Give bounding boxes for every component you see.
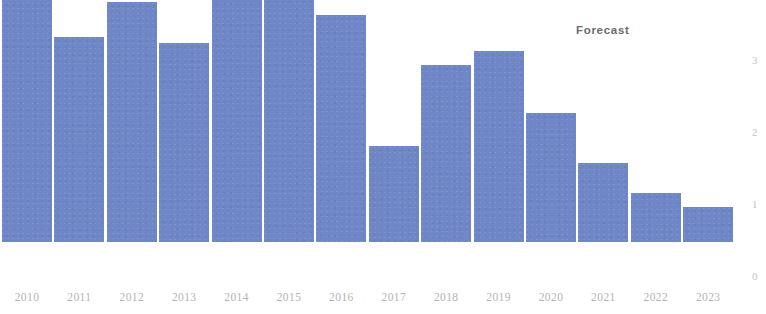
- bar-2017[interactable]: [369, 146, 419, 242]
- plot-area: [0, 0, 748, 279]
- xtick-label-2016: 2016: [315, 291, 367, 303]
- bar-2012[interactable]: [107, 2, 157, 242]
- ytick-label-3: 3: [752, 54, 766, 66]
- bar-chart: Forecast 2010201120122013201420152016201…: [0, 0, 766, 314]
- bar-2014[interactable]: [212, 0, 262, 242]
- ytick-label-1: 1: [752, 198, 766, 210]
- xtick-label-2015: 2015: [263, 291, 315, 303]
- bar-2019[interactable]: [474, 51, 524, 242]
- xtick-label-2017: 2017: [368, 291, 420, 303]
- xtick-label-2020: 2020: [525, 291, 577, 303]
- xtick-label-2018: 2018: [420, 291, 472, 303]
- xtick-label-2023: 2023: [682, 291, 734, 303]
- xtick-label-2019: 2019: [473, 291, 525, 303]
- bar-2010[interactable]: [2, 0, 52, 242]
- xtick-label-2014: 2014: [211, 291, 263, 303]
- xtick-label-2013: 2013: [158, 291, 210, 303]
- bar-2020[interactable]: [526, 113, 576, 242]
- bar-2022[interactable]: [631, 193, 681, 242]
- ytick-label-2: 2: [752, 126, 766, 138]
- bar-2018[interactable]: [421, 65, 471, 242]
- bar-2023[interactable]: [683, 207, 733, 242]
- bar-2016[interactable]: [316, 15, 366, 242]
- xtick-label-2021: 2021: [577, 291, 629, 303]
- ytick-label-0: 0: [752, 270, 766, 282]
- xtick-label-2011: 2011: [53, 291, 105, 303]
- forecast-annotation-label: Forecast: [576, 24, 630, 36]
- xtick-label-2022: 2022: [630, 291, 682, 303]
- xtick-label-2012: 2012: [106, 291, 158, 303]
- bar-2021[interactable]: [578, 163, 628, 242]
- bar-2011[interactable]: [54, 37, 104, 242]
- bar-2015[interactable]: [264, 0, 314, 242]
- bar-2013[interactable]: [159, 43, 209, 242]
- xtick-label-2010: 2010: [1, 291, 53, 303]
